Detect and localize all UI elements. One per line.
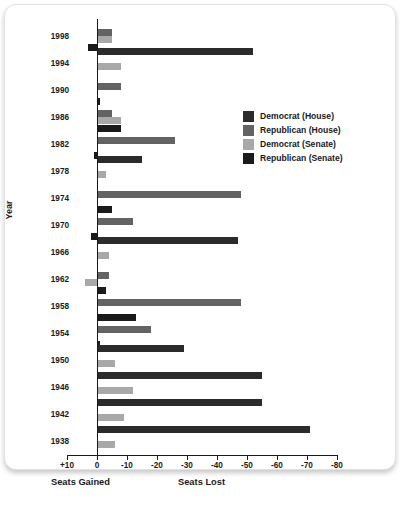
x-tick--80 bbox=[337, 455, 338, 460]
x-tick--50 bbox=[247, 455, 248, 460]
bar-1966-democrat-house bbox=[97, 237, 238, 244]
y-axis-tick-1950: 1950 bbox=[5, 356, 69, 365]
bar-1974-republican-senate bbox=[97, 206, 112, 213]
y-axis-tick-1962: 1962 bbox=[5, 275, 69, 284]
legend-label: Republican (House) bbox=[260, 125, 341, 135]
y-axis-tick-1954: 1954 bbox=[5, 329, 69, 338]
bar-1950-democrat-senate bbox=[97, 360, 115, 367]
y-axis-tick-1990: 1990 bbox=[5, 86, 69, 95]
chart-plot-area: Year 19981994199019861982197819741970196… bbox=[5, 5, 397, 471]
x-tick--10 bbox=[127, 455, 128, 460]
legend-swatch-icon bbox=[243, 125, 254, 136]
bar-1998-democrat-senate bbox=[97, 36, 112, 43]
y-axis-tick-1982: 1982 bbox=[5, 140, 69, 149]
bar-1946-democrat-senate bbox=[97, 387, 133, 394]
bar-1950-democrat-house bbox=[97, 345, 184, 352]
bar-1990-republican-house bbox=[97, 83, 121, 90]
y-axis-tick-1998: 1998 bbox=[5, 32, 69, 41]
x-tick-0 bbox=[97, 455, 98, 460]
bar-1974-republican-house bbox=[97, 191, 241, 198]
bar-1962-republican-house bbox=[97, 272, 109, 279]
legend-item: Republican (Senate) bbox=[243, 151, 343, 165]
legend-swatch-icon bbox=[243, 139, 254, 150]
legend-item: Democrat (House) bbox=[243, 109, 343, 123]
bar-1970-republican-house bbox=[97, 218, 133, 225]
y-axis-tick-1942: 1942 bbox=[5, 410, 69, 419]
bar-1942-democrat-house bbox=[97, 399, 262, 406]
axis-caption-gained: Seats Gained bbox=[51, 477, 110, 487]
legend-item: Republican (House) bbox=[243, 123, 343, 137]
y-axis-tick-1994: 1994 bbox=[5, 59, 69, 68]
y-axis-tick-1974: 1974 bbox=[5, 194, 69, 203]
bar-1994-democrat-senate bbox=[97, 63, 121, 70]
legend-item: Democrat (Senate) bbox=[243, 137, 343, 151]
x-tick-label--80: -80 bbox=[317, 461, 357, 470]
bar-1938-democrat-senate bbox=[97, 441, 115, 448]
bar-1966-democrat-senate bbox=[97, 252, 109, 259]
x-tick--20 bbox=[157, 455, 158, 460]
bar-1998-republican-house bbox=[97, 29, 112, 36]
y-axis-title: Year bbox=[4, 200, 14, 219]
y-axis-tick-1970: 1970 bbox=[5, 221, 69, 230]
x-tick--70 bbox=[307, 455, 308, 460]
x-tick--40 bbox=[217, 455, 218, 460]
y-axis-tick-1966: 1966 bbox=[5, 248, 69, 257]
bar-1978-democrat-house bbox=[97, 156, 142, 163]
bar-1958-republican-house bbox=[97, 299, 241, 306]
chart-legend: Democrat (House)Republican (House)Democr… bbox=[243, 109, 343, 165]
bar-1982-republican-house bbox=[97, 137, 175, 144]
x-tick-+10 bbox=[67, 455, 68, 460]
legend-label: Democrat (House) bbox=[260, 111, 334, 121]
legend-label: Republican (Senate) bbox=[260, 153, 343, 163]
bar-1994-democrat-house bbox=[97, 48, 253, 55]
y-axis-tick-1946: 1946 bbox=[5, 383, 69, 392]
y-axis-tick-1938: 1938 bbox=[5, 437, 69, 446]
zero-axis-line bbox=[97, 19, 98, 459]
bar-1986-democrat-senate bbox=[97, 117, 121, 124]
legend-label: Democrat (Senate) bbox=[260, 139, 336, 149]
bar-1942-democrat-senate bbox=[97, 414, 124, 421]
x-axis-line bbox=[67, 455, 337, 456]
legend-swatch-icon bbox=[243, 111, 254, 122]
bar-1998-republican-senate bbox=[88, 44, 97, 51]
axis-caption-lost: Seats Lost bbox=[178, 477, 225, 487]
bar-1958-republican-senate bbox=[97, 314, 136, 321]
chart-card: Year 19981994199019861982197819741970196… bbox=[4, 4, 396, 470]
bar-1946-democrat-house bbox=[97, 372, 262, 379]
y-axis-tick-1978: 1978 bbox=[5, 167, 69, 176]
y-axis-tick-1958: 1958 bbox=[5, 302, 69, 311]
bar-1986-republican-house bbox=[97, 110, 112, 117]
bar-1986-republican-senate bbox=[97, 125, 121, 132]
bar-1938-democrat-house bbox=[97, 426, 310, 433]
x-tick--60 bbox=[277, 455, 278, 460]
bar-1962-democrat-senate bbox=[85, 279, 97, 286]
x-tick--30 bbox=[187, 455, 188, 460]
legend-swatch-icon bbox=[243, 153, 254, 164]
bar-1954-republican-house bbox=[97, 326, 151, 333]
y-axis-tick-1986: 1986 bbox=[5, 113, 69, 122]
